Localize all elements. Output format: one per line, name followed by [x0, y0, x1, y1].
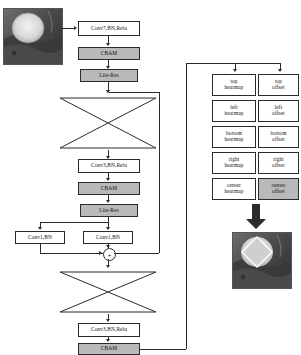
- node-top-offset-line2: offset: [272, 85, 285, 91]
- node-conv3-bn-relu-bottom[interactable]: Conv3,BN,Relu: [78, 323, 140, 337]
- node-bottom-heatmap-line2: heatmap: [225, 137, 244, 143]
- output-image: [232, 232, 292, 289]
- node-lite-res-top[interactable]: Lite-Res: [80, 69, 138, 82]
- node-bottom-heatmap[interactable]: bottom heatmap: [212, 126, 256, 148]
- node-hourglass-bottom[interactable]: [58, 270, 158, 314]
- node-center-offset-line2: offset: [272, 189, 285, 195]
- edge-input-to-conv7: [61, 28, 74, 29]
- edge-split-to-conv1-left-arrowhead: [38, 227, 42, 230]
- edge-conv1-left-to-sum: [40, 253, 103, 254]
- node-top-heatmap[interactable]: top heatmap: [212, 74, 256, 96]
- edge-conv3-bottom-to-cbam-bottom-arrowhead: [106, 339, 110, 342]
- edge-lite-res-mid-split-bus: [40, 222, 108, 223]
- architecture-diagram: Conv7,BN,Relu CBAM Lite-Res Conv3,BN,Rel…: [0, 0, 301, 355]
- node-top-heatmap-line2: heatmap: [225, 85, 244, 91]
- node-top-offset[interactable]: top offset: [258, 74, 299, 96]
- node-left-heatmap[interactable]: left heatmap: [212, 100, 256, 122]
- node-conv7-bn-relu[interactable]: Conv7,BN,Relu: [78, 21, 140, 36]
- edge-head-bus-to-col-offset-arrowhead: [278, 69, 282, 72]
- node-cbam-top[interactable]: CBAM: [78, 47, 140, 60]
- output-block-arrow-icon: [245, 204, 267, 230]
- node-right-offset-line2: offset: [272, 163, 285, 169]
- node-right-offset[interactable]: right offset: [258, 152, 299, 174]
- edge-sum-to-hourglass-bottom-arrowhead: [106, 265, 110, 268]
- node-right-heatmap[interactable]: right heatmap: [212, 152, 256, 174]
- node-conv1-bn-left[interactable]: Conv1,BN: [15, 231, 65, 244]
- edge-cbam-bottom-to-head-vertical: [186, 63, 187, 349]
- node-cbam-bottom[interactable]: CBAM: [78, 343, 140, 355]
- edge-head-bus-to-col-heatmap-arrowhead: [233, 69, 237, 72]
- node-lite-res-mid[interactable]: Lite-Res: [80, 204, 138, 217]
- edge-split-to-conv1-right-arrowhead: [106, 227, 110, 230]
- edge-cbam-bottom-to-head-horizontal: [140, 349, 186, 350]
- node-bottom-offset-line2: offset: [272, 137, 285, 143]
- node-center-heatmap-line2: heatmap: [225, 189, 244, 195]
- edge-conv3-mid-to-cbam-mid-arrowhead: [106, 178, 110, 181]
- edge-hourglass-bottom-to-conv3-bottom-arrowhead: [106, 319, 110, 322]
- node-sum-add[interactable]: +: [103, 248, 116, 261]
- node-left-heatmap-line2: heatmap: [225, 111, 244, 117]
- edge-cbam-mid-to-lite-res-mid-arrowhead: [106, 200, 110, 203]
- node-left-offset-line2: offset: [272, 111, 285, 117]
- node-cbam-mid[interactable]: CBAM: [78, 182, 140, 195]
- edge-conv7-to-cbam-top-arrowhead: [106, 43, 110, 46]
- skip-connection-bottom-segment: [114, 253, 159, 254]
- node-conv1-bn-right[interactable]: Conv1,BN: [83, 231, 133, 244]
- skip-connection-top-segment: [109, 92, 159, 93]
- edge-conv1-left-down: [40, 244, 41, 253]
- edge-head-top-bus: [186, 63, 280, 64]
- node-center-heatmap[interactable]: center heatmap: [212, 178, 256, 200]
- input-image: [3, 8, 63, 65]
- node-conv3-bn-relu-mid[interactable]: Conv3,BN,Relu: [78, 159, 140, 173]
- node-bottom-offset[interactable]: bottom offset: [258, 126, 299, 148]
- node-left-offset[interactable]: left offset: [258, 100, 299, 122]
- skip-connection-vertical: [159, 92, 160, 253]
- edge-conv1-left-to-sum-arrowhead: [99, 251, 102, 255]
- edge-input-to-conv7-arrowhead: [74, 26, 77, 30]
- skip-connection-arrowhead: [106, 90, 110, 93]
- node-center-offset[interactable]: center offset: [258, 178, 299, 200]
- node-hourglass-top[interactable]: [58, 96, 158, 150]
- node-right-heatmap-line2: heatmap: [225, 163, 244, 169]
